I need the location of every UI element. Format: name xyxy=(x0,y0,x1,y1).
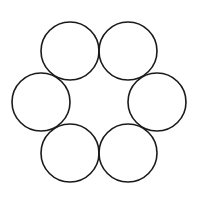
circle-bottom-left xyxy=(41,124,99,182)
diagram-canvas xyxy=(0,0,199,205)
circle-bottom-right xyxy=(99,124,157,182)
circle-top-right xyxy=(99,22,157,80)
circle-left xyxy=(12,73,70,131)
circle-right xyxy=(128,73,186,131)
circle-top-left xyxy=(41,22,99,80)
circle-ring-diagram xyxy=(0,0,199,205)
